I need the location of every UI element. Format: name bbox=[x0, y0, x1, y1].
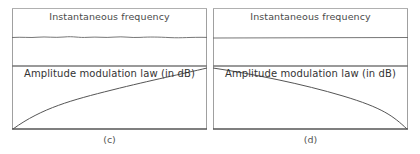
amplitude-label: Amplitude modulation law (in dB) bbox=[213, 68, 408, 79]
frequency-label: Instantaneous frequency bbox=[213, 11, 408, 22]
frequency-trace bbox=[12, 37, 207, 38]
frequency-trace bbox=[213, 38, 408, 39]
panel-c: Instantaneous frequency Amplitude modula… bbox=[12, 8, 207, 129]
amplitude-label: Amplitude modulation law (in dB) bbox=[12, 68, 207, 79]
caption-d: (d) bbox=[213, 134, 408, 145]
panel-d: Instantaneous frequency Amplitude modula… bbox=[213, 8, 408, 129]
frequency-label: Instantaneous frequency bbox=[12, 11, 207, 22]
caption-c: (c) bbox=[12, 134, 207, 145]
